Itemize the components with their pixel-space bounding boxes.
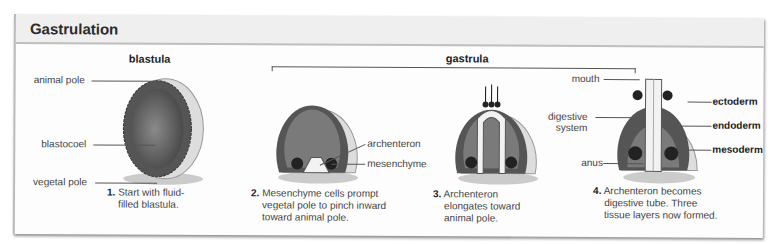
step-1-caption: 1. Start with fluid- filled blastula.	[107, 186, 184, 210]
figure-header: Gastrulation	[16, 14, 764, 48]
leader-vegetal-pole	[95, 182, 157, 183]
step-4-caption: 4. Archenteron becomes digestive tube. T…	[593, 185, 718, 222]
label-archenteron: archenteron	[367, 138, 420, 149]
figure-title: Gastrulation	[30, 20, 118, 37]
leader-anus	[603, 163, 643, 164]
label-mesoderm: mesoderm	[712, 144, 763, 155]
label-vegetal-pole: vegetal pole	[33, 176, 87, 187]
label-blastocoel: blastocoel	[41, 138, 86, 149]
label-endoderm: endoderm	[712, 120, 760, 131]
leader-ectoderm	[688, 102, 712, 103]
step-3-caption: 3. Archenteron elongates toward animal p…	[433, 188, 520, 224]
leader-mesenchyme	[331, 164, 365, 165]
leader-digestive-system	[595, 117, 645, 118]
label-ectoderm: ectoderm	[713, 96, 758, 107]
late-gastrula-illustration	[617, 75, 708, 185]
gastrulation-figure: Gastrulation blastula gastrula animal po…	[13, 14, 764, 238]
stage-heading-gastrula: gastrula	[446, 52, 489, 64]
label-animal-pole: animal pole	[34, 74, 85, 85]
label-digestive-system: digestive system	[547, 111, 587, 133]
stage-heading-blastula: blastula	[129, 53, 171, 65]
blastula-illustration	[115, 77, 206, 187]
mid-gastrula-illustration	[453, 78, 544, 188]
label-mesenchyme: mesenchyme	[367, 158, 427, 169]
label-mouth: mouth	[572, 73, 600, 84]
early-gastrula-illustration	[273, 77, 364, 187]
leader-animal-pole	[92, 80, 158, 81]
leader-blastocoel	[93, 144, 155, 145]
leader-mouth	[604, 79, 640, 80]
leader-mesoderm	[677, 149, 711, 150]
label-anus: anus	[581, 157, 603, 168]
step-2-caption: 2. Mesenchyme cells prompt vegetal pole …	[251, 187, 386, 224]
